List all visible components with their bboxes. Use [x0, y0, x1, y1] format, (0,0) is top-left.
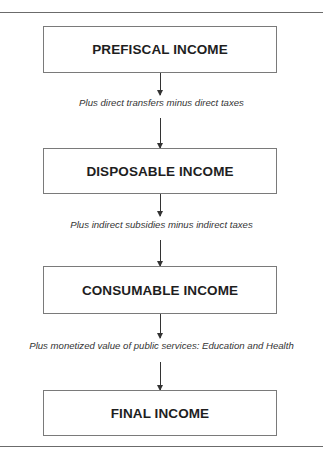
arrow-down-icon	[160, 240, 161, 266]
bottom-rule	[0, 446, 323, 447]
node-prefiscal-income: PREFISCAL INCOME	[43, 26, 277, 73]
node-disposable-income: DISPOSABLE INCOME	[43, 148, 277, 194]
top-rule	[0, 12, 323, 13]
arrow-down-icon	[160, 194, 161, 216]
node-final-income: FINAL INCOME	[43, 390, 277, 436]
edge-label-public-services: Plus monetized value of public services:…	[0, 340, 323, 351]
edge-label-indirect: Plus indirect subsidies minus indirect t…	[0, 219, 323, 230]
arrow-down-icon	[160, 314, 161, 338]
arrow-down-icon	[160, 362, 161, 390]
node-label: CONSUMABLE INCOME	[82, 283, 238, 298]
arrow-down-icon	[160, 73, 161, 95]
arrow-down-icon	[160, 118, 161, 148]
node-label: PREFISCAL INCOME	[92, 42, 228, 57]
node-label: DISPOSABLE INCOME	[86, 164, 233, 179]
node-consumable-income: CONSUMABLE INCOME	[43, 266, 277, 314]
node-label: FINAL INCOME	[111, 406, 209, 421]
edge-label-direct: Plus direct transfers minus direct taxes	[0, 97, 323, 108]
